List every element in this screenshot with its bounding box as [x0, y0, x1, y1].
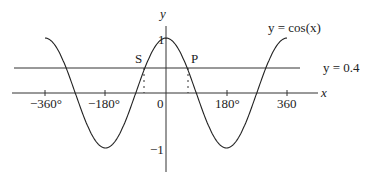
point-p-label: P — [191, 51, 198, 66]
curve-label: y = cos(x) — [268, 20, 321, 35]
tick-label-neg360: −360° — [30, 96, 62, 111]
tick-label-1: 1 — [158, 32, 165, 47]
x-axis-label: x — [320, 85, 327, 100]
tick-label-neg180: −180° — [88, 96, 120, 111]
point-s-label: S — [135, 51, 142, 66]
tick-label-180: 180° — [215, 96, 240, 111]
cosine-graph: y x y = cos(x) y = 0.4 −360° −180° 0 180… — [0, 0, 375, 179]
tick-label-0: 0 — [157, 96, 164, 111]
tick-label-360: 360 — [277, 96, 297, 111]
tick-label-neg1: −1 — [150, 142, 164, 157]
line-label: y = 0.4 — [323, 60, 360, 75]
y-axis-label: y — [158, 6, 166, 21]
